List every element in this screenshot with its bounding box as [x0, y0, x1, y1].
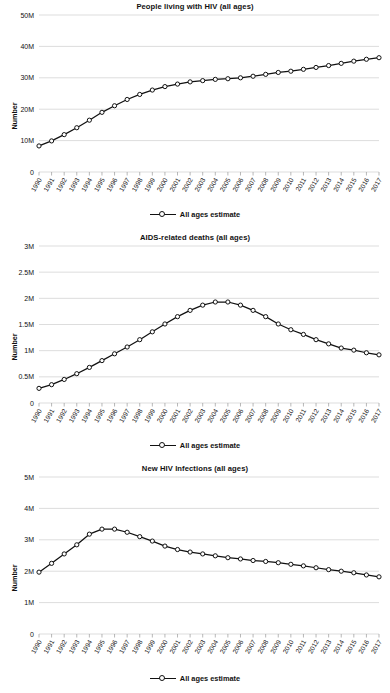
x-tick-label: 1992: [55, 176, 69, 192]
data-point-marker: [226, 300, 230, 304]
x-tick-label: 2012: [307, 638, 321, 654]
data-point-marker: [352, 59, 356, 63]
data-point-marker: [276, 561, 280, 565]
data-point-marker: [238, 303, 242, 307]
x-tick-label: 2016: [357, 176, 371, 192]
x-tick-label: 1998: [130, 407, 144, 423]
data-point-marker: [314, 65, 318, 69]
x-tick-label: 2010: [281, 407, 295, 423]
y-tick-label: 5M: [24, 474, 34, 481]
x-tick-label: 2001: [168, 638, 182, 654]
x-tick-label: 2010: [281, 176, 295, 192]
data-point-marker: [201, 79, 205, 83]
data-point-marker: [213, 300, 217, 304]
data-point-marker: [75, 126, 79, 130]
x-tick-label: 2002: [181, 176, 195, 192]
x-tick-label: 2015: [344, 638, 358, 654]
data-point-marker: [339, 61, 343, 65]
x-tick-label: 2010: [281, 638, 295, 654]
x-tick-label: 2017: [369, 176, 383, 192]
x-tick-label: 1997: [118, 407, 132, 423]
y-tick-label: 10M: [20, 137, 34, 144]
data-point-marker: [62, 552, 66, 556]
x-tick-label: 2011: [294, 176, 307, 192]
x-tick-label: 2003: [193, 638, 207, 654]
chart-legend: All ages estimate: [0, 674, 390, 685]
data-point-marker: [87, 365, 91, 369]
data-point-marker: [125, 530, 129, 534]
data-point-marker: [238, 76, 242, 80]
data-point-marker: [125, 345, 129, 349]
data-point-marker: [112, 527, 116, 531]
x-tick-label: 2003: [193, 407, 207, 423]
data-point-marker: [276, 322, 280, 326]
data-point-marker: [364, 57, 368, 61]
chart-legend: All ages estimate: [0, 210, 390, 221]
x-tick-label: 2003: [193, 176, 207, 192]
y-tick-label: 40M: [20, 43, 34, 50]
x-tick-label: 1995: [92, 638, 106, 654]
x-tick-label: 2005: [218, 407, 232, 423]
x-tick-label: 2006: [231, 176, 245, 192]
y-tick-label: 0: [30, 631, 34, 638]
data-point-marker: [226, 556, 230, 560]
x-tick-label: 2013: [319, 638, 333, 654]
x-tick-label: 2006: [231, 407, 245, 423]
x-tick-label: 2013: [319, 176, 333, 192]
data-point-marker: [264, 72, 268, 76]
line-circle-marker-icon: [150, 674, 176, 683]
x-tick-label: 2009: [269, 638, 283, 654]
x-tick-label: 1991: [42, 638, 56, 654]
x-tick-label: 1999: [143, 176, 157, 192]
x-tick-label: 2008: [256, 407, 270, 423]
data-point-marker: [163, 544, 167, 548]
data-point-marker: [100, 527, 104, 531]
x-tick-label: 1993: [67, 176, 81, 192]
y-tick-label: 1M: [24, 599, 34, 606]
x-tick-label: 2017: [369, 407, 383, 423]
data-point-marker: [163, 84, 167, 88]
x-tick-label: 1992: [55, 638, 69, 654]
y-tick-label: 1M: [24, 347, 34, 354]
data-point-marker: [150, 330, 154, 334]
data-point-marker: [364, 351, 368, 355]
x-tick-label: 2011: [294, 638, 307, 654]
data-point-marker: [188, 80, 192, 84]
x-tick-label: 2014: [332, 407, 346, 423]
data-point-marker: [238, 557, 242, 561]
data-point-marker: [327, 342, 331, 346]
data-point-marker: [301, 332, 305, 336]
data-point-marker: [352, 571, 356, 575]
data-point-marker: [264, 315, 268, 319]
x-tick-label: 1994: [80, 638, 94, 654]
data-point-marker: [276, 70, 280, 74]
data-point-marker: [175, 82, 179, 86]
x-tick-label: 1996: [105, 638, 119, 654]
x-tick-label: 2000: [155, 176, 169, 192]
x-tick-label: 2000: [155, 407, 169, 423]
data-point-marker: [37, 386, 41, 390]
data-point-marker: [188, 550, 192, 554]
data-point-marker: [213, 554, 217, 558]
chart-people-living-with-hiv: People living with HIV (all ages) Number…: [0, 0, 390, 231]
data-point-marker: [138, 338, 142, 342]
data-point-marker: [175, 547, 179, 551]
x-tick-label: 2015: [344, 176, 358, 192]
x-tick-label: 2012: [307, 176, 321, 192]
x-tick-label: 2016: [357, 638, 371, 654]
x-tick-label: 1990: [29, 638, 43, 654]
x-tick-label: 2017: [369, 638, 383, 654]
data-point-marker: [188, 308, 192, 312]
data-point-marker: [49, 139, 53, 143]
x-tick-label: 2004: [206, 638, 220, 654]
x-tick-label: 2007: [244, 407, 258, 423]
x-tick-label: 2001: [168, 407, 182, 423]
data-point-marker: [213, 77, 217, 81]
data-point-marker: [289, 562, 293, 566]
data-point-marker: [364, 573, 368, 577]
data-point-marker: [138, 92, 142, 96]
x-tick-label: 2005: [218, 176, 232, 192]
x-tick-label: 1991: [42, 407, 56, 423]
data-point-marker: [251, 308, 255, 312]
chart-new-hiv-infections: New HIV Infections (all ages) Number 01M…: [0, 462, 390, 693]
